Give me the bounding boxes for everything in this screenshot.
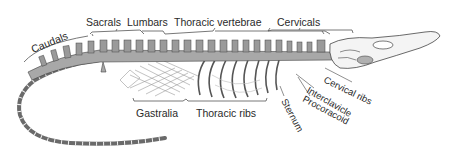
label-thoracic-vertebrae: Thoracic vertebrae <box>174 16 262 28</box>
thoracic-ribs <box>198 60 279 98</box>
skull <box>330 32 440 69</box>
cervicals-bracket <box>268 30 353 33</box>
skeleton-diagram: Caudals Sacrals Lumbars Thoracic vertebr… <box>0 0 449 151</box>
label-gastralia: Gastralia <box>136 107 178 119</box>
thoracic-vertebrae-bracket <box>215 31 330 34</box>
label-lumbars: Lumbars <box>127 16 168 28</box>
label-caudals: Caudals <box>29 29 69 55</box>
label-thoracic-ribs: Thoracic ribs <box>196 107 256 119</box>
gastralia <box>120 61 198 96</box>
lumbars-thoracic-bracket <box>142 28 215 34</box>
label-sacrals: Sacrals <box>86 16 121 28</box>
lower-brackets <box>133 98 267 101</box>
labels: Caudals Sacrals Lumbars Thoracic vertebr… <box>29 16 374 134</box>
vertebral-column <box>28 40 332 80</box>
label-cervicals: Cervicals <box>277 16 320 28</box>
gastralia-thoracic-ribs-bracket <box>133 98 267 101</box>
